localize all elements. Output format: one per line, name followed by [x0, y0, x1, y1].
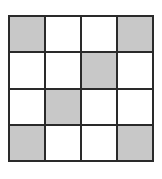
grid-cell-r1-c1-shaded — [9, 16, 45, 52]
grid-cell-r4-c4-shaded — [117, 125, 153, 161]
grid-cell-r2-c2-empty — [45, 52, 81, 88]
grid-cell-r1-c3-empty — [81, 16, 117, 52]
grid-cell-r3-c1-empty — [9, 89, 45, 125]
grid-cell-r2-c3-shaded — [81, 52, 117, 88]
shaded-grid — [8, 15, 154, 162]
grid-cell-r4-c3-empty — [81, 125, 117, 161]
grid-cell-r2-c4-empty — [117, 52, 153, 88]
grid-cell-r2-c1-empty — [9, 52, 45, 88]
grid-cell-r1-c4-shaded — [117, 16, 153, 52]
grid-cell-r4-c1-shaded — [9, 125, 45, 161]
grid-cell-r3-c2-shaded — [45, 89, 81, 125]
grid-cell-r4-c2-empty — [45, 125, 81, 161]
grid-cell-r3-c4-empty — [117, 89, 153, 125]
grid-cell-r3-c3-empty — [81, 89, 117, 125]
grid-cell-r1-c2-empty — [45, 16, 81, 52]
